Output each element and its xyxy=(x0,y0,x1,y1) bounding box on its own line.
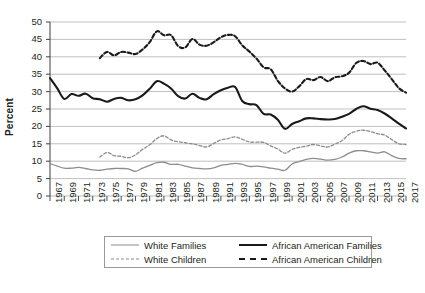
y-tick-label: 25 xyxy=(18,104,42,114)
y-tick-label: 0 xyxy=(18,191,42,201)
x-tick-label: 1995 xyxy=(253,182,263,203)
x-tick-label: 1983 xyxy=(168,182,178,203)
legend-label: White Children xyxy=(144,254,206,265)
y-tick-label: 5 xyxy=(18,174,42,184)
y-tick-label: 35 xyxy=(18,69,42,79)
x-tick-label: 2005 xyxy=(325,182,335,203)
series-line xyxy=(100,31,406,92)
x-tick-label: 2013 xyxy=(382,182,392,203)
x-tick-label: 1987 xyxy=(196,182,206,203)
y-tick-label: 20 xyxy=(18,121,42,131)
series-line xyxy=(50,78,406,129)
x-tick-label: 1973 xyxy=(97,182,107,203)
x-tick-label: 1999 xyxy=(282,182,292,203)
y-axis-line xyxy=(46,22,50,196)
x-tick-label: 2003 xyxy=(310,182,320,203)
x-tick-label: 1969 xyxy=(68,182,78,203)
x-tick-label: 2015 xyxy=(396,182,406,203)
x-tick-label: 2011 xyxy=(367,183,377,203)
x-tick-label: 1997 xyxy=(268,182,278,203)
legend-label: African American Families xyxy=(272,240,382,251)
legend-swatch-line-icon xyxy=(239,241,267,249)
legend-label: White Families xyxy=(144,240,206,251)
x-tick-label: 1981 xyxy=(154,182,164,203)
legend-label: African American Children xyxy=(272,254,382,265)
x-tick-label: 1977 xyxy=(125,182,135,203)
y-tick-label: 30 xyxy=(18,87,42,97)
y-tick-label: 50 xyxy=(18,17,42,27)
y-tick-label: 10 xyxy=(18,156,42,166)
legend-item-white-families: White Families xyxy=(105,240,233,251)
x-tick-label: 1971 xyxy=(82,182,92,203)
x-tick-label: 2001 xyxy=(296,182,306,203)
chart-figure: Percent 05101520253035404550 19671969197… xyxy=(0,0,425,293)
chart-legend: White Families African American Families… xyxy=(104,236,372,268)
x-tick-label: 1989 xyxy=(211,182,221,203)
x-tick-label: 1985 xyxy=(182,182,192,203)
y-tick-label: 15 xyxy=(18,139,42,149)
x-tick-label: 1979 xyxy=(139,182,149,203)
x-tick-label: 1993 xyxy=(239,182,249,203)
x-tick-label: 2017 xyxy=(410,182,420,203)
y-tick-label: 45 xyxy=(18,34,42,44)
legend-swatch-line-icon xyxy=(111,241,139,249)
legend-swatch-line-icon xyxy=(111,255,139,263)
x-tick-label: 1967 xyxy=(54,182,64,203)
x-tick-label: 1991 xyxy=(225,182,235,203)
legend-item-white-children: White Children xyxy=(105,254,233,265)
legend-swatch-line-icon xyxy=(239,255,267,263)
y-tick-label: 40 xyxy=(18,52,42,62)
x-tick-label: 2007 xyxy=(339,182,349,203)
x-tick-label: 1975 xyxy=(111,182,121,203)
series-lines xyxy=(50,31,406,171)
legend-item-african-american-children: African American Children xyxy=(233,254,373,265)
legend-item-african-american-families: African American Families xyxy=(233,240,373,251)
x-tick-label: 2009 xyxy=(353,182,363,203)
